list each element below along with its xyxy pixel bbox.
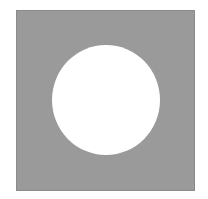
white-circle: [52, 45, 160, 155]
